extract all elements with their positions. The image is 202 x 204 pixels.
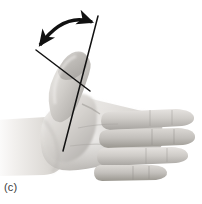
panel-label: (c) bbox=[4, 181, 17, 194]
little-finger bbox=[94, 165, 167, 181]
figure-panel: (c) bbox=[0, 0, 202, 204]
hand-illustration bbox=[0, 0, 202, 204]
